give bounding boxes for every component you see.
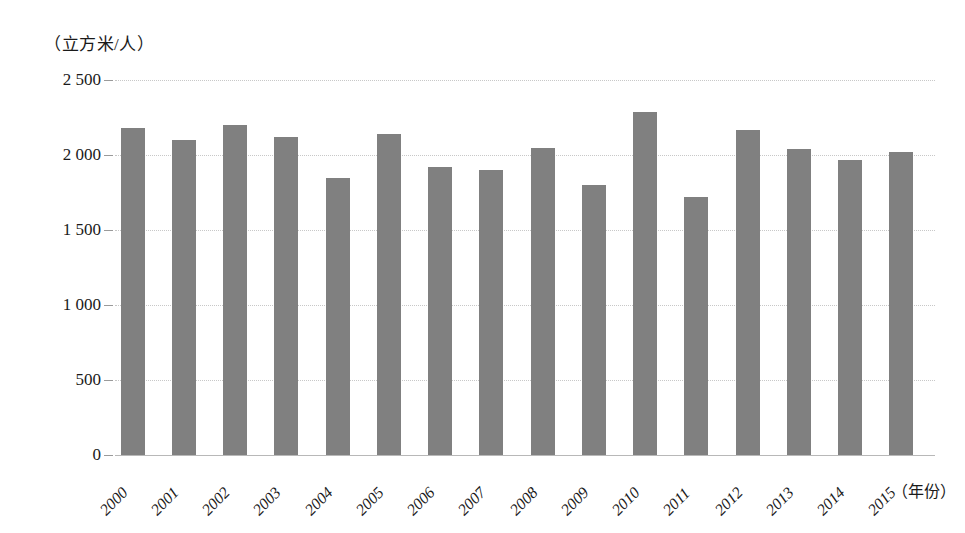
- bar-2007: [479, 170, 503, 455]
- y-tick-mark-500: [104, 380, 113, 381]
- bar-2011: [684, 197, 708, 455]
- x-axis-label-group: 2000200120022003200420052006200720082009…: [115, 455, 935, 525]
- bar-2003: [274, 137, 298, 455]
- bar-2006: [428, 167, 452, 455]
- x-tick-label-2001: 2001: [147, 484, 182, 519]
- y-tick-label-500: 500: [76, 370, 102, 390]
- x-tick-label-2006: 2006: [403, 484, 438, 519]
- x-tick-label-2013: 2013: [762, 484, 797, 519]
- bar-chart: （立方米/人） 05001 0001 5002 0002 500 2000200…: [0, 0, 965, 533]
- x-tick-label-2009: 2009: [557, 484, 592, 519]
- bar-2015: [889, 152, 913, 455]
- x-tick-label-2005: 2005: [352, 484, 387, 519]
- y-tick-label-2500: 2 500: [63, 70, 101, 90]
- bar-2000: [121, 128, 145, 455]
- bar-2010: [633, 112, 657, 456]
- x-tick-label-2000: 2000: [96, 484, 131, 519]
- x-tick-label-2014: 2014: [813, 484, 848, 519]
- y-tick-label-2000: 2 000: [63, 145, 101, 165]
- y-tick-label-1500: 1 500: [63, 220, 101, 240]
- bar-2005: [377, 134, 401, 455]
- x-tick-label-2008: 2008: [506, 484, 541, 519]
- y-tick-mark-1500: [104, 230, 113, 231]
- plot-area: 05001 0001 5002 0002 500: [115, 80, 935, 455]
- y-tick-mark-2000: [104, 155, 113, 156]
- y-tick-label-1000: 1 000: [63, 295, 101, 315]
- bar-2012: [736, 130, 760, 456]
- y-tick-mark-0: [104, 455, 113, 456]
- y-tick-label-0: 0: [93, 445, 102, 465]
- y-tick-mark-2500: [104, 80, 113, 81]
- bar-2014: [838, 160, 862, 456]
- x-tick-label-2003: 2003: [250, 484, 285, 519]
- bar-2001: [172, 140, 196, 455]
- x-axis-unit-label: （年份）: [892, 478, 956, 502]
- bar-group: [115, 80, 935, 455]
- x-tick-label-2010: 2010: [608, 484, 643, 519]
- bar-2009: [582, 185, 606, 455]
- y-tick-mark-1000: [104, 305, 113, 306]
- y-axis-unit-label: （立方米/人）: [44, 30, 154, 55]
- bar-2008: [531, 148, 555, 456]
- x-tick-label-2002: 2002: [198, 484, 233, 519]
- bar-2013: [787, 149, 811, 455]
- x-tick-label-2011: 2011: [660, 484, 695, 519]
- bar-2002: [223, 125, 247, 455]
- x-tick-label-2012: 2012: [711, 484, 746, 519]
- x-tick-label-2004: 2004: [301, 484, 336, 519]
- x-tick-label-2007: 2007: [455, 484, 490, 519]
- bar-2004: [326, 178, 350, 456]
